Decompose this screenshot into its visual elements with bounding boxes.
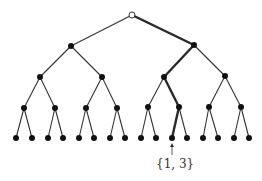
leaf-node — [29, 135, 35, 141]
tree-edge — [141, 107, 148, 138]
internal-node — [238, 104, 244, 110]
leaf-node — [231, 135, 237, 141]
tree-edge — [24, 77, 40, 108]
highlighted-edge — [164, 45, 194, 77]
tree-edge — [86, 77, 102, 108]
internal-node — [176, 104, 182, 110]
tree-edge — [148, 77, 164, 107]
arrow-head-icon — [170, 143, 174, 147]
tree-edge — [225, 76, 241, 107]
internal-node — [114, 105, 120, 111]
annotation-arrow — [170, 143, 174, 155]
internal-node — [145, 104, 151, 110]
internal-node — [161, 74, 167, 80]
tree-edge — [71, 46, 102, 77]
highlighted-edge — [132, 15, 194, 45]
internal-node — [191, 42, 197, 48]
leaf-node — [45, 135, 51, 141]
leaf-annotation-label: {1, 3} — [156, 157, 194, 171]
leaf-node — [215, 135, 221, 141]
leaf-node — [122, 135, 128, 141]
tree-edge — [48, 108, 55, 138]
binary-tree-diagram — [0, 0, 262, 181]
tree-edge — [209, 76, 225, 107]
tree-nodes — [13, 12, 252, 141]
tree-edge — [203, 107, 209, 138]
leaf-node — [184, 135, 190, 141]
tree-edge — [40, 46, 71, 77]
tree-edge — [102, 77, 117, 108]
tree-edge — [40, 77, 55, 108]
leaf-node — [138, 135, 144, 141]
leaf-node — [200, 135, 206, 141]
internal-node — [99, 74, 105, 80]
tree-edge — [55, 108, 63, 138]
leaf-node — [60, 135, 66, 141]
tree-edges — [16, 15, 249, 138]
leaf-node — [91, 135, 97, 141]
tree-edge — [86, 108, 94, 138]
internal-node — [68, 43, 74, 49]
tree-edge — [71, 15, 132, 46]
leaf-node — [13, 135, 19, 141]
tree-edge — [16, 108, 24, 138]
tree-edge — [117, 108, 125, 138]
tree-edge — [194, 45, 225, 76]
highlighted-edge — [172, 107, 179, 138]
tree-edge — [110, 108, 117, 138]
internal-node — [37, 74, 43, 80]
tree-edge — [24, 108, 32, 138]
leaf-node — [169, 135, 175, 141]
leaf-node — [246, 135, 252, 141]
tree-edge — [179, 107, 187, 138]
tree-edge — [79, 108, 86, 138]
tree-edge — [241, 107, 249, 138]
leaf-node — [107, 135, 113, 141]
tree-edge — [148, 107, 156, 138]
root-node — [129, 12, 135, 18]
internal-node — [21, 105, 27, 111]
highlighted-edge — [164, 77, 179, 107]
internal-node — [206, 104, 212, 110]
internal-node — [52, 105, 58, 111]
tree-edge — [209, 107, 218, 138]
internal-node — [83, 105, 89, 111]
leaf-node — [76, 135, 82, 141]
internal-node — [222, 73, 228, 79]
tree-edge — [234, 107, 241, 138]
leaf-node — [153, 135, 159, 141]
